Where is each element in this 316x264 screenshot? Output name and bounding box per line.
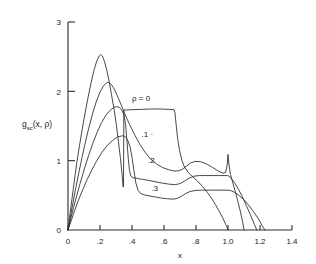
curve-annotation-3: .3 — [151, 184, 158, 193]
x-tick-label-4: .8 — [193, 237, 200, 246]
axes-group — [68, 22, 292, 230]
y-axis-title: gsc(x, ρ) — [22, 119, 52, 131]
curve-annotation-1: .1 · — [142, 130, 154, 139]
curve-rho-3 — [68, 136, 265, 230]
axis-lines — [68, 22, 292, 230]
x-tick-label-7: 1.4 — [286, 237, 298, 246]
x-tick-label-0: 0 — [66, 237, 71, 246]
y-axis-title-args: (x, ρ) — [33, 119, 53, 129]
curves-group — [68, 55, 265, 230]
curve-annotation-2: .2 — [148, 156, 155, 165]
chart-text-labels: 0.2.4.6.81.01.21.40123xgsc(x, ρ)ρ = 0.1 … — [22, 18, 298, 260]
y-tick-label-0: 0 — [57, 226, 62, 235]
y-tick-label-1: 1 — [57, 157, 62, 166]
x-axis-title: x — [178, 251, 182, 260]
figure-container: 0.2.4.6.81.01.21.40123xgsc(x, ρ)ρ = 0.1 … — [0, 0, 316, 264]
curve-rho-0 — [68, 55, 228, 230]
curve-rho-2 — [68, 107, 257, 230]
x-tick-label-5: 1.0 — [222, 237, 234, 246]
x-tick-label-2: .4 — [129, 237, 136, 246]
y-tick-label-3: 3 — [57, 18, 62, 27]
x-tick-label-1: .2 — [97, 237, 104, 246]
x-tick-label-6: 1.2 — [254, 237, 266, 246]
scientific-line-chart: 0.2.4.6.81.01.21.40123xgsc(x, ρ)ρ = 0.1 … — [0, 0, 316, 264]
y-tick-label-2: 2 — [57, 88, 62, 97]
curve-annotation-0: ρ = 0 — [132, 94, 151, 103]
x-tick-label-3: .6 — [161, 237, 168, 246]
